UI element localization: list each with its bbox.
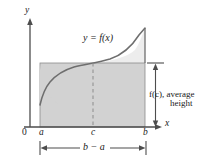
tick-label-c: c	[91, 128, 95, 138]
y-axis-label: y	[25, 6, 29, 16]
y-axis-arrowhead	[27, 18, 33, 25]
width-arrow-right	[139, 145, 146, 150]
average-height-annotation: f(c), average height	[149, 90, 194, 109]
x-axis-label: x	[165, 119, 169, 129]
width-arrow-left	[41, 145, 48, 150]
origin-label: 0	[22, 128, 27, 138]
height-arrow-up	[153, 64, 158, 71]
figure-canvas	[0, 0, 212, 164]
width-label: b − a	[83, 142, 105, 153]
tick-label-a: a	[39, 128, 44, 138]
mvt-integrals-figure: y x 0 y = f(x) a c b f(c), average heigh…	[0, 0, 212, 164]
average-height-line2: height	[149, 99, 194, 108]
function-label: y = f(x)	[83, 33, 113, 44]
tick-label-b: b	[143, 128, 148, 138]
